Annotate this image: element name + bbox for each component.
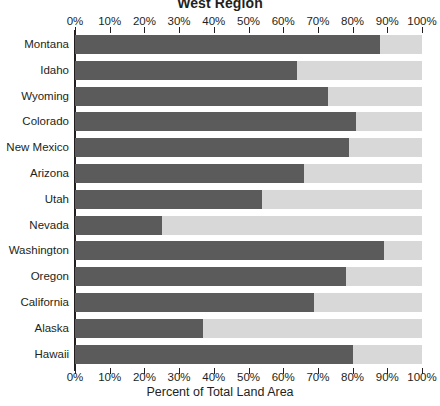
bar-value-segment <box>75 267 346 286</box>
x-axis-tick-label-top: 60% <box>272 14 295 28</box>
category-label-nevada: Nevada <box>0 216 69 235</box>
bar-row[interactable] <box>75 267 422 286</box>
chart-title: West Region <box>0 0 440 11</box>
x-axis-tick-labels-top: 0%10%20%30%40%50%60%70%80%90%100% <box>0 14 440 28</box>
x-axis-tick-label-top: 90% <box>376 14 399 28</box>
bar-row[interactable] <box>75 293 422 312</box>
x-axis-tick-mark-top <box>353 27 354 33</box>
bar-row[interactable] <box>75 87 422 106</box>
x-axis-tick-label-bottom: 10% <box>98 370 121 384</box>
x-axis-tick-label-top: 40% <box>202 14 225 28</box>
bar-value-segment <box>75 345 353 364</box>
x-axis-tick-label-top: 50% <box>237 14 260 28</box>
x-axis-tick-mark-top <box>422 27 423 33</box>
category-label-oregon: Oregon <box>0 267 69 286</box>
bar-row[interactable] <box>75 216 422 235</box>
category-label-alaska: Alaska <box>0 319 69 338</box>
category-label-arizona: Arizona <box>0 164 69 183</box>
category-label-california: California <box>0 293 69 312</box>
x-axis-tick-label-top: 20% <box>133 14 156 28</box>
bar-value-segment <box>75 61 297 80</box>
bar-row[interactable] <box>75 35 422 54</box>
x-axis-tick-label-bottom: 90% <box>376 370 399 384</box>
category-label-hawaii: Hawaii <box>0 345 69 364</box>
x-axis-tick-mark-top <box>387 27 388 33</box>
x-axis-tick-labels-bottom: 0%10%20%30%40%50%60%70%80%90%100% <box>0 370 440 384</box>
x-axis-tick-label-bottom: 50% <box>237 370 260 384</box>
x-axis-tick-mark-top <box>318 27 319 33</box>
bar-value-segment <box>75 87 328 106</box>
chart-container: West Region 0%10%20%30%40%50%60%70%80%90… <box>0 0 440 406</box>
x-axis-tick-label-top: 100% <box>407 14 436 28</box>
x-axis-tick-label-bottom: 80% <box>341 370 364 384</box>
bar-row[interactable] <box>75 61 422 80</box>
x-axis-tick-label-top: 30% <box>168 14 191 28</box>
x-axis-tick-label-top: 10% <box>98 14 121 28</box>
bar-row[interactable] <box>75 190 422 209</box>
category-label-new-mexico: New Mexico <box>0 138 69 157</box>
x-axis-tick-label-top: 0% <box>67 14 84 28</box>
x-axis-tick-label-bottom: 30% <box>168 370 191 384</box>
bar-value-segment <box>75 190 262 209</box>
bar-row[interactable] <box>75 319 422 338</box>
x-axis-tick-mark-top <box>214 27 215 33</box>
x-axis-tick-label-bottom: 0% <box>67 370 84 384</box>
x-axis-tick-mark-top <box>249 27 250 33</box>
bar-row[interactable] <box>75 112 422 131</box>
x-axis-tick-label-top: 80% <box>341 14 364 28</box>
bar-value-segment <box>75 293 314 312</box>
category-label-utah: Utah <box>0 190 69 209</box>
bar-row[interactable] <box>75 138 422 157</box>
x-axis-tick-mark-top <box>75 27 76 33</box>
bar-value-segment <box>75 216 162 235</box>
bar-value-segment <box>75 138 349 157</box>
x-axis-tick-mark-top <box>283 27 284 33</box>
x-axis-tick-label-bottom: 100% <box>407 370 436 384</box>
bar-value-segment <box>75 35 380 54</box>
x-axis-tick-label-bottom: 20% <box>133 370 156 384</box>
category-label-washington: Washington <box>0 241 69 260</box>
x-axis-tick-mark-top <box>110 27 111 33</box>
x-axis-tick-label-top: 70% <box>306 14 329 28</box>
x-axis-tick-mark-top <box>179 27 180 33</box>
category-label-idaho: Idaho <box>0 61 69 80</box>
bar-value-segment <box>75 319 203 338</box>
category-label-colorado: Colorado <box>0 112 69 131</box>
x-axis-tick-label-bottom: 60% <box>272 370 295 384</box>
plot-area <box>75 33 422 368</box>
bar-row[interactable] <box>75 345 422 364</box>
x-axis-tick-label-bottom: 40% <box>202 370 225 384</box>
x-axis-tick-mark-top <box>144 27 145 33</box>
bar-row[interactable] <box>75 164 422 183</box>
category-label-montana: Montana <box>0 35 69 54</box>
category-label-wyoming: Wyoming <box>0 87 69 106</box>
bar-value-segment <box>75 241 384 260</box>
bar-row[interactable] <box>75 241 422 260</box>
x-axis-title: Percent of Total Land Area <box>0 385 440 399</box>
bar-value-segment <box>75 112 356 131</box>
x-axis-tick-label-bottom: 70% <box>306 370 329 384</box>
bar-value-segment <box>75 164 304 183</box>
